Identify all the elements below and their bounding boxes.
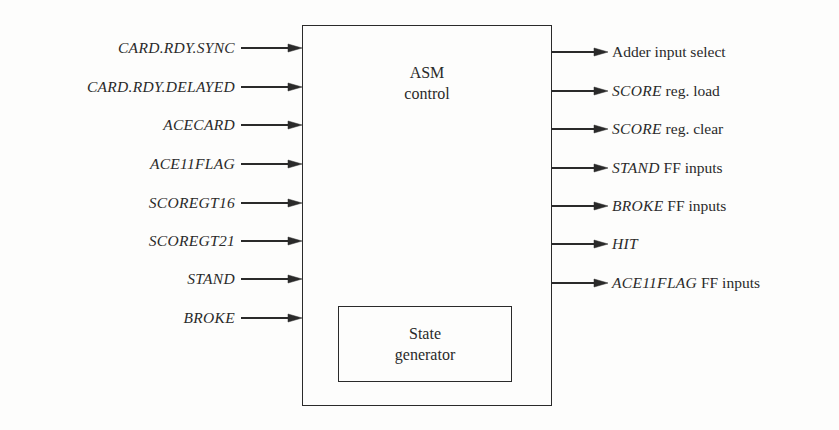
output-arrow [552,48,608,56]
input-arrow [241,199,302,207]
input-arrow [241,237,302,245]
output-arrow [552,164,608,172]
input-arrow [241,160,302,168]
output-arrow [552,202,608,210]
input-arrow [241,44,302,52]
output-arrow [552,240,608,248]
input-arrow [241,121,302,129]
input-arrow [241,314,302,322]
output-arrow [552,125,608,133]
input-arrow [241,83,302,91]
input-arrow [241,275,302,283]
output-arrow [552,87,608,95]
signal-arrows [0,0,839,430]
output-arrow [552,279,608,287]
